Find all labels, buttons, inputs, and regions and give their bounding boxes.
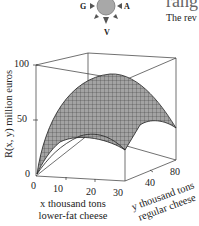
x-tick-20: 20 [86, 186, 96, 197]
z-tick-50: 50 [17, 113, 27, 124]
x-axis-label: x thousand tons lower-fat cheese [28, 198, 118, 222]
z-tick-100: 100 [14, 58, 29, 69]
z-axis-label-text: R(x, y) million euros [3, 70, 14, 158]
x-tick-0: 0 [31, 180, 36, 191]
x-axis-label-line1: x thousand tons [28, 198, 118, 210]
y-tick-80: 80 [170, 166, 180, 177]
y-tick-40: 40 [145, 177, 155, 188]
z-tick-0: 0 [25, 168, 30, 179]
x-tick-30: 30 [113, 187, 123, 198]
z-axis-label: R(x, y) million euros [3, 59, 15, 169]
x-axis-label-line2: lower-fat cheese [28, 210, 118, 222]
x-tick-10: 10 [53, 183, 63, 194]
